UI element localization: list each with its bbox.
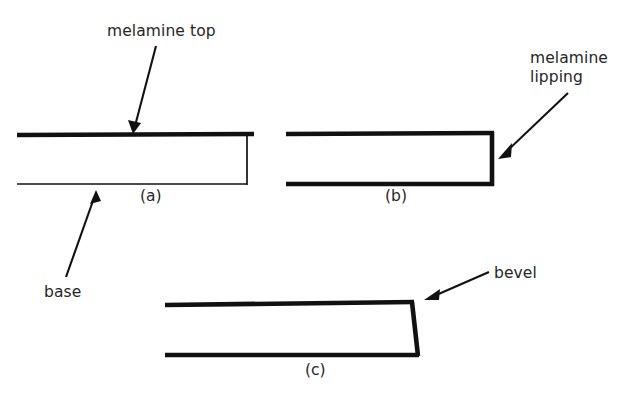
melamine-top-label: melamine top [107,22,216,40]
melamine-lipping-label-line1: melamine [530,49,608,67]
panel-c-caption: (c) [305,361,326,379]
bevel-leader-line [434,272,489,296]
panel-a: (a) [17,134,254,205]
base-label: base [44,283,81,301]
panel-b-caption: (b) [385,187,407,205]
base-arrow-icon [90,190,101,204]
melamine-lipping-arrow-icon [498,143,512,159]
panel-a-caption: (a) [140,187,162,205]
worktop-edge-diagram: (a) (b) (c) melamine top melamine lippin… [0,0,628,410]
melamine-top-arrow-icon [128,120,141,134]
bevel-label: bevel [494,264,537,282]
panel-c: (c) [165,302,419,379]
melamine-top-leader-line [135,46,156,126]
melamine-lipping-leader-line [506,93,568,152]
panel-b: (b) [286,132,494,205]
panel-c-bevelled-edge [412,302,418,356]
figure-container: (a) (b) (c) melamine top melamine lippin… [0,0,628,410]
bevel-arrow-icon [424,289,440,300]
annotation-melamine-lipping: melamine lipping [498,49,608,159]
base-leader-line [66,198,94,277]
melamine-lipping-label-line2: lipping [530,68,583,86]
panel-b-top-surface [286,133,494,134]
annotation-melamine-top: melamine top [107,22,216,134]
annotation-bevel: bevel [424,264,537,300]
panel-c-top-surface [165,302,414,305]
annotation-base: base [44,190,101,301]
panel-a-top-surface [17,134,254,135]
